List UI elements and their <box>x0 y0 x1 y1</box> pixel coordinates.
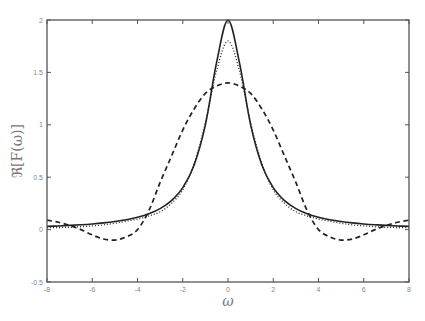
y-tick-labels: -0.500.511.52 <box>31 17 43 286</box>
curve-solid <box>47 20 409 226</box>
x-tick-label: 0 <box>226 286 230 293</box>
plot-frame <box>47 20 409 282</box>
x-tick-label: -2 <box>180 286 186 293</box>
y-tick-label: 1 <box>39 121 43 128</box>
y-tick-label: 2 <box>39 17 43 24</box>
y-tick-label: 0.5 <box>33 174 43 181</box>
curve-dashed <box>47 83 409 240</box>
x-tick-labels: -8-6-4-202468 <box>44 286 411 293</box>
x-tick-label: -4 <box>134 286 140 293</box>
x-tick-label: 2 <box>271 286 275 293</box>
plot-curves <box>47 20 409 240</box>
axis-ticks <box>47 20 409 282</box>
y-tick-label: 0 <box>39 226 43 233</box>
y-tick-label: 1.5 <box>33 69 43 76</box>
x-tick-label: -6 <box>89 286 95 293</box>
x-axis-label: ω <box>222 293 234 309</box>
chart: -8-6-4-202468 -0.500.511.52 ω ℜ[F(ω)] <box>0 0 425 321</box>
y-axis-label: ℜ[F(ω)] <box>9 124 25 178</box>
x-tick-label: 6 <box>362 286 366 293</box>
x-tick-label: -8 <box>44 286 50 293</box>
x-tick-label: 8 <box>407 286 411 293</box>
y-tick-label: -0.5 <box>31 279 43 286</box>
curve-dotted <box>47 41 409 228</box>
x-tick-label: 4 <box>317 286 321 293</box>
